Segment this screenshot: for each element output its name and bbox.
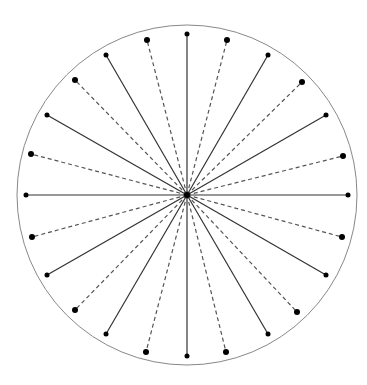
solid-dot bbox=[266, 53, 271, 58]
dashed-dot bbox=[72, 77, 78, 83]
solid-spoke bbox=[187, 195, 268, 334]
radial-diagram bbox=[0, 0, 367, 385]
dashed-dot bbox=[340, 153, 346, 159]
dashed-spoke bbox=[187, 195, 226, 352]
dashed-dot bbox=[294, 309, 300, 315]
solid-dot bbox=[324, 273, 329, 278]
dashed-spoke bbox=[31, 154, 187, 195]
solid-spoke bbox=[106, 195, 187, 334]
solid-spoke bbox=[47, 195, 187, 275]
solid-spoke bbox=[187, 115, 326, 195]
dashed-dot bbox=[143, 349, 149, 355]
center-hub bbox=[184, 192, 190, 198]
solid-dot bbox=[104, 332, 109, 337]
solid-dot bbox=[45, 113, 50, 118]
solid-dot bbox=[346, 193, 351, 198]
solid-dot bbox=[266, 332, 271, 337]
dashed-spoke bbox=[187, 195, 342, 237]
dashed-spoke bbox=[187, 195, 297, 312]
solid-dot bbox=[45, 273, 50, 278]
dashed-dot bbox=[144, 37, 150, 43]
solid-dot bbox=[185, 354, 190, 359]
solid-dot bbox=[104, 53, 109, 58]
dashed-dot bbox=[72, 307, 78, 313]
dashed-dot bbox=[299, 79, 305, 85]
dashed-dot bbox=[28, 151, 34, 157]
solid-dot bbox=[24, 193, 29, 198]
dashed-dot bbox=[224, 37, 230, 43]
solid-spoke bbox=[47, 115, 187, 195]
dashed-spoke bbox=[147, 40, 187, 195]
solid-dot bbox=[185, 32, 190, 37]
solid-dot bbox=[324, 113, 329, 118]
dashed-spoke bbox=[187, 156, 343, 195]
dashed-spoke bbox=[187, 40, 227, 195]
dashed-dot bbox=[339, 234, 345, 240]
dashed-spoke bbox=[32, 195, 187, 237]
dashed-dot bbox=[29, 234, 35, 240]
dashed-dot bbox=[223, 349, 229, 355]
solid-spoke bbox=[187, 55, 268, 195]
dashed-spoke bbox=[75, 195, 187, 310]
dashed-spoke bbox=[146, 195, 187, 352]
solid-spoke bbox=[187, 195, 326, 275]
